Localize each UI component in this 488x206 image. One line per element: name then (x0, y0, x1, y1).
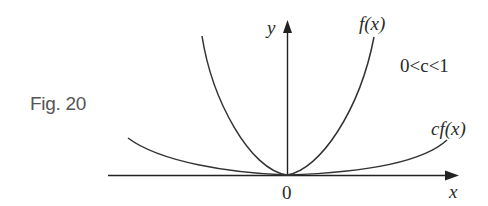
curve-f-label: f(x) (359, 13, 385, 35)
y-axis-label: y (265, 17, 276, 38)
origin-label: 0 (282, 182, 292, 203)
x-axis-arrow-icon (445, 171, 459, 181)
x-axis-label: x (448, 181, 458, 202)
condition-label: 0<c<1 (400, 55, 449, 76)
function-graph: y x 0 f(x) cf(x) 0<c<1 (0, 0, 488, 206)
y-axis-arrow-icon (283, 20, 292, 33)
curve-cf-label: cf(x) (431, 118, 466, 140)
